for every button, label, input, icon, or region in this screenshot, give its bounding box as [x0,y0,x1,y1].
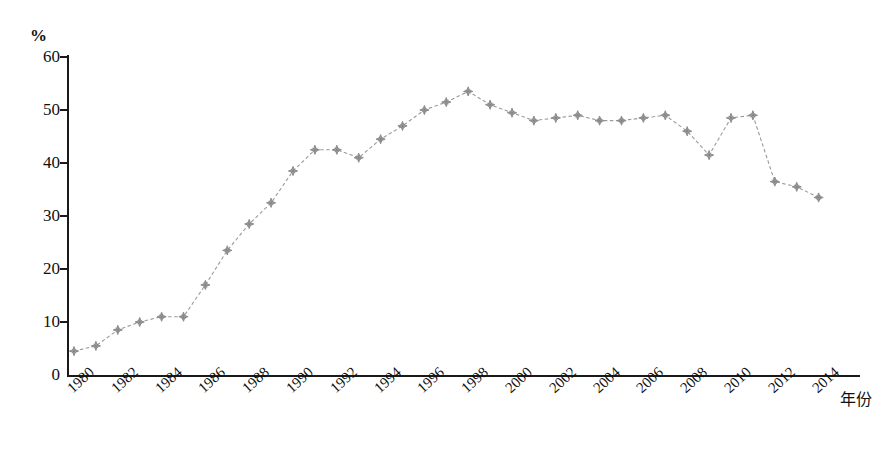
y-tick-label-50: 50 [0,100,60,120]
x-tick-label-2004: 2004 [590,364,624,397]
data-point-marker [267,198,276,207]
data-point-marker [398,121,407,130]
y-tick-label-60: 60 [0,47,60,67]
x-tick-label-2000: 2000 [502,364,536,397]
data-point-marker [245,219,254,228]
x-tick-label-1996: 1996 [414,364,448,397]
data-point-marker [179,312,188,321]
data-point-marker [726,113,735,122]
y-tick-mark-30 [60,215,68,217]
data-point-marker [420,105,429,114]
x-tick-label-2008: 2008 [677,364,711,397]
y-axis-unit-label: % [30,26,47,46]
x-tick-label-1986: 1986 [195,364,229,397]
x-tick-label-2002: 2002 [546,364,580,397]
data-point-marker [486,100,495,109]
y-tick-mark-40 [60,162,68,164]
data-point-marker [770,177,779,186]
data-point-marker [288,166,297,175]
series-line [74,91,819,351]
y-tick-label-10: 10 [0,312,60,332]
data-series-layer [0,0,890,453]
data-point-marker [223,246,232,255]
chart-page: % 0102030405060 198019821984198619881990… [0,0,890,453]
x-tick-label-1984: 1984 [152,364,186,397]
x-tick-label-1994: 1994 [371,364,405,397]
data-point-marker [201,280,210,289]
data-point-marker [442,98,451,107]
x-tick-label-2010: 2010 [721,364,755,397]
x-tick-label-1990: 1990 [283,364,317,397]
data-point-marker [573,111,582,120]
x-tick-label-1988: 1988 [239,364,273,397]
y-tick-label-40: 40 [0,153,60,173]
data-point-marker [135,317,144,326]
y-tick-mark-60 [60,56,68,58]
x-axis-title: 年份 [840,386,872,410]
x-tick-label-1982: 1982 [108,364,142,397]
y-tick-label-30: 30 [0,206,60,226]
data-point-marker [69,347,78,356]
y-tick-mark-20 [60,268,68,270]
x-tick-label-1998: 1998 [458,364,492,397]
data-point-marker [639,113,648,122]
y-tick-mark-50 [60,109,68,111]
data-point-marker [507,108,516,117]
data-point-marker [792,182,801,191]
data-point-marker [748,111,757,120]
data-point-marker [529,116,538,125]
data-point-marker [310,145,319,154]
data-point-marker [617,116,626,125]
data-point-marker [113,325,122,334]
data-point-marker [661,111,670,120]
data-point-marker [705,151,714,160]
y-tick-label-20: 20 [0,259,60,279]
data-point-marker [551,113,560,122]
y-tick-label-0: 0 [0,365,60,385]
x-tick-label-1992: 1992 [327,364,361,397]
x-tick-label-2014: 2014 [809,364,843,397]
data-point-marker [354,153,363,162]
data-point-marker [595,116,604,125]
x-tick-label-2006: 2006 [633,364,667,397]
y-tick-mark-10 [60,321,68,323]
x-tick-label-2012: 2012 [765,364,799,397]
data-point-marker [91,341,100,350]
data-point-marker [464,87,473,96]
data-point-marker [376,135,385,144]
x-tick-label-1980: 1980 [64,364,98,397]
data-point-marker [683,127,692,136]
data-point-marker [157,312,166,321]
data-point-marker [814,193,823,202]
data-point-marker [332,145,341,154]
